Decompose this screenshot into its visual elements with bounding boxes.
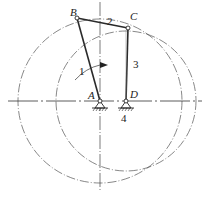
label-C: C (130, 10, 138, 22)
joint-C (126, 26, 130, 30)
link-3-rocker (126, 28, 128, 101)
label-link-4: 4 (121, 112, 127, 124)
rotation-arrow-icon (100, 62, 108, 68)
label-D: D (129, 88, 138, 100)
label-link-2: 2 (107, 15, 113, 27)
label-A: A (87, 89, 95, 101)
link-2-coupler (77, 18, 128, 28)
four-bar-linkage-diagram: B C A D 1 2 3 4 (0, 0, 210, 202)
label-B: B (70, 6, 77, 18)
label-link-1: 1 (79, 65, 85, 77)
label-link-3: 3 (133, 58, 139, 70)
